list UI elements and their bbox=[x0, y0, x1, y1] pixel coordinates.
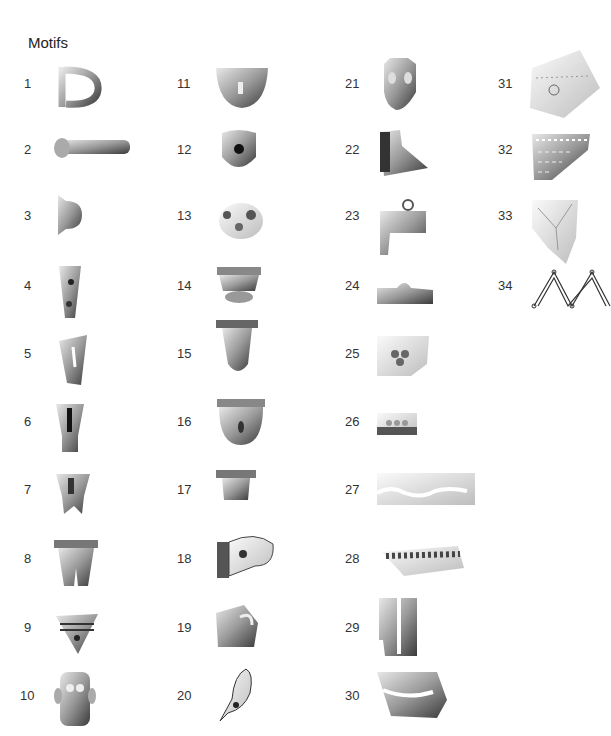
motif-number: 11 bbox=[177, 76, 191, 91]
motif-image-sherd-net bbox=[532, 132, 590, 182]
motif-number: 15 bbox=[177, 346, 191, 361]
motif-number: 14 bbox=[177, 278, 191, 293]
motif-image-knob bbox=[52, 191, 84, 237]
motif-image-cup-face bbox=[215, 265, 263, 305]
motif-number: 28 bbox=[345, 551, 359, 566]
motif-number: 4 bbox=[24, 278, 31, 293]
motif-number: 33 bbox=[498, 208, 512, 223]
motif-image-small-cup bbox=[216, 470, 256, 504]
motif-number: 16 bbox=[177, 414, 191, 429]
motif-number: 26 bbox=[345, 414, 359, 429]
motif-number: 32 bbox=[498, 142, 512, 157]
motif-number: 22 bbox=[345, 142, 359, 157]
motif-number: 27 bbox=[345, 482, 359, 497]
motif-number: 30 bbox=[345, 688, 359, 703]
motif-image-double-foot bbox=[52, 538, 100, 590]
motif-image-wavy-band bbox=[377, 473, 475, 505]
motif-image-bird-head bbox=[214, 665, 254, 723]
motif-image-vertical-ridge bbox=[377, 596, 419, 656]
motif-image-rope-band bbox=[380, 542, 464, 576]
motif-number: 17 bbox=[177, 482, 191, 497]
motif-number: 9 bbox=[24, 620, 31, 635]
motif-image-rim-dots bbox=[377, 413, 417, 435]
motif-image-animal-face bbox=[376, 56, 422, 112]
motif-image-tapered-pod bbox=[216, 320, 258, 376]
motif-image-bowl-face bbox=[214, 64, 270, 110]
motif-image-round-face-eyes bbox=[215, 197, 267, 241]
motif-image-leg-groove bbox=[52, 400, 88, 455]
motif-image-horizontal-bar bbox=[52, 134, 134, 162]
motif-image-rim-triple-dot bbox=[377, 336, 429, 376]
motif-image-handle-loop bbox=[52, 62, 102, 112]
motif-image-mask-face bbox=[52, 668, 98, 730]
motif-image-round-face-hole bbox=[218, 127, 260, 173]
motif-number: 23 bbox=[345, 208, 359, 223]
motif-image-zigzag-drawing bbox=[530, 268, 611, 310]
motif-image-molar-foot bbox=[52, 470, 94, 516]
motif-image-sherd-lines bbox=[532, 198, 580, 264]
motif-image-curved-band bbox=[377, 670, 447, 720]
motif-image-jar-handle bbox=[376, 197, 428, 257]
motif-number: 24 bbox=[345, 278, 359, 293]
motif-image-beak-head bbox=[376, 128, 428, 178]
motif-number: 8 bbox=[24, 551, 31, 566]
motif-number: 7 bbox=[24, 482, 31, 497]
motif-number: 29 bbox=[345, 620, 359, 635]
motif-number: 19 bbox=[177, 620, 191, 635]
motif-image-triangle-face bbox=[52, 608, 102, 658]
motif-number: 5 bbox=[24, 346, 31, 361]
figure-title: Motifs bbox=[28, 34, 68, 51]
motif-number: 21 bbox=[345, 76, 359, 91]
motif-image-rim-knob bbox=[377, 278, 433, 304]
motif-number: 6 bbox=[24, 414, 31, 429]
motif-number: 12 bbox=[177, 142, 191, 157]
motif-number: 34 bbox=[498, 278, 512, 293]
motif-image-bowl-hole bbox=[215, 399, 267, 445]
motif-image-tapered-leg-slit bbox=[55, 333, 89, 387]
motif-image-sherd-incised bbox=[520, 48, 602, 120]
motif-number: 1 bbox=[24, 76, 31, 91]
motif-number: 3 bbox=[24, 208, 31, 223]
motif-image-tapered-leg bbox=[55, 262, 85, 322]
motif-number: 2 bbox=[24, 142, 31, 157]
motif-number: 31 bbox=[498, 76, 512, 91]
motif-number: 20 bbox=[177, 688, 191, 703]
motif-number: 18 bbox=[177, 551, 191, 566]
motif-number: 25 bbox=[345, 346, 359, 361]
motif-image-animal-head bbox=[215, 532, 277, 580]
motif-number: 13 bbox=[177, 208, 191, 223]
motif-number: 10 bbox=[20, 688, 34, 703]
motif-image-fragment-loop bbox=[214, 603, 260, 649]
